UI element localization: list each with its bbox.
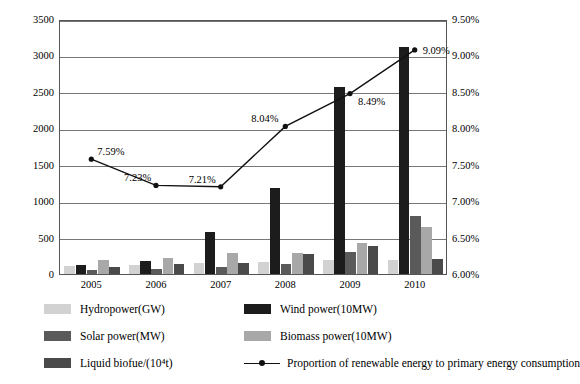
legend-label: Hydropower(GW) [80,303,165,315]
x-axis-tick-label: 2006 [124,279,189,290]
right-axis-tick-label: 6.00% [452,270,479,281]
bar [399,47,410,274]
bar [281,264,292,274]
left-axis-tick-label: 3500 [33,15,54,26]
trend-point-label: 9.09% [423,45,450,56]
bar [140,261,151,274]
bar [163,258,174,274]
legend-item[interactable]: Wind power(10MW) [244,298,377,320]
legend-item[interactable]: Solar power(MW) [44,325,165,347]
trend-point-label: 8.04% [251,113,278,124]
bar [76,265,87,274]
legend-label: Wind power(10MW) [280,303,377,315]
right-axis-tick-label: 8.00% [452,124,479,135]
bar [64,266,75,274]
bar [292,253,303,274]
bar [357,243,368,274]
left-axis-tick-label: 1500 [33,161,54,172]
bar [98,260,109,274]
right-axis-tick-label: 8.50% [452,88,479,99]
bar [216,267,227,274]
legend-swatch-icon [44,331,71,341]
x-axis-tick-label: 2005 [59,279,124,290]
right-axis-tick-label: 7.50% [452,161,479,172]
bar [87,270,98,274]
right-axis-tick-label: 9.50% [452,15,479,26]
legend-swatch-icon [44,304,71,314]
bar [194,263,205,274]
legend-item[interactable]: Biomass power(10MW) [244,325,391,347]
left-axis-tick-label: 3000 [33,51,54,62]
left-axis-tick-label: 0 [49,270,54,281]
legend-item[interactable]: Hydropower(GW) [44,298,165,320]
bar [323,260,334,274]
bar [227,253,238,274]
x-axis-tick-label: 2008 [253,279,318,290]
left-axis-tick-label: 2000 [33,124,54,135]
bar [109,267,120,274]
bar [388,260,399,274]
right-axis-tick-label: 9.00% [452,51,479,62]
bar [151,269,162,274]
legend-label: Solar power(MW) [80,330,165,342]
legend-label: Liquid biofue/(10⁴t) [80,357,172,369]
bar [205,232,216,274]
bar [303,254,314,274]
legend-line-marker-icon [244,358,280,368]
bar [238,263,249,274]
right-axis: 6.00%6.50%7.00%7.50%8.00%8.50%9.00%9.50% [452,20,522,275]
legend-swatch-icon [244,331,271,341]
left-axis-tick-label: 1000 [33,197,54,208]
legend-label: Biomass power(10MW) [280,330,391,342]
bar [421,227,432,274]
legend-swatch-icon [244,304,271,314]
trend-point-label: 8.49% [358,96,385,107]
bar [368,246,379,274]
trend-point-label: 7.59% [97,146,124,157]
chart-legend: Hydropower(GW)Wind power(10MW)Solar powe… [44,298,524,378]
left-axis-tick-label: 2500 [33,88,54,99]
bar [410,216,421,274]
legend-item[interactable]: Liquid biofue/(10⁴t) [44,352,172,374]
x-axis-tick-label: 2010 [382,279,447,290]
legend-item[interactable]: Proportion of renewable energy to primar… [244,352,580,374]
bar [270,188,281,274]
x-axis-tick-label: 2007 [188,279,253,290]
right-axis-tick-label: 6.50% [452,234,479,245]
bar [345,252,356,274]
bar [258,262,269,274]
bar [174,264,185,274]
bar [129,265,140,274]
x-axis-tick-label: 2009 [318,279,383,290]
trend-point-label: 7.23% [124,172,151,183]
left-axis: 0500100015002000250030003500 [0,20,54,275]
right-axis-tick-label: 7.00% [452,197,479,208]
left-axis-tick-label: 500 [38,234,54,245]
bar [334,87,345,274]
legend-swatch-icon [44,358,71,368]
bar [432,259,443,274]
trend-point-label: 7.21% [189,174,216,185]
legend-label: Proportion of renewable energy to primar… [287,357,580,369]
